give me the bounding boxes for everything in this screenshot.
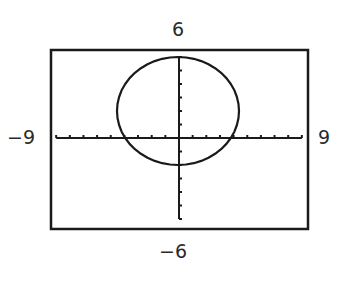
axes: [56, 57, 302, 219]
graph-plot: [0, 0, 340, 281]
